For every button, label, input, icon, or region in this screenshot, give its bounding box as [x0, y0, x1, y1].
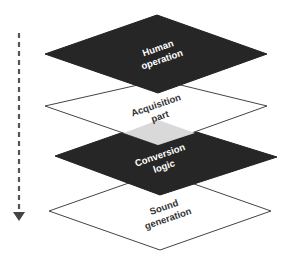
flow-arrow: [13, 33, 25, 221]
arrow-head-icon: [13, 212, 25, 221]
layer-stack-diagram: Human operation Acquisition part Convers…: [0, 0, 284, 262]
